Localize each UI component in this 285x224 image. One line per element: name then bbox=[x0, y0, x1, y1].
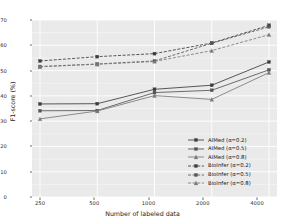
legend-item[interactable]: AIMed (α=0.8) bbox=[187, 153, 279, 162]
data-point bbox=[210, 42, 213, 45]
legend-item[interactable]: AIMed (α=0.5) bbox=[187, 145, 279, 154]
data-point bbox=[153, 88, 156, 91]
legend-marker bbox=[195, 147, 198, 150]
data-point bbox=[39, 109, 42, 112]
chart-svg bbox=[0, 0, 285, 224]
legend-key-solid-icon bbox=[187, 145, 205, 153]
legend: AIMed (α=0.2)AIMed (α=0.5)AIMed (α=0.8)B… bbox=[186, 134, 280, 190]
legend-item[interactable]: AIMed (α=0.2) bbox=[187, 136, 279, 145]
legend-key-solid-icon bbox=[187, 136, 205, 144]
legend-item[interactable]: BioInfer (α=0.5) bbox=[187, 170, 279, 179]
figure: 70 60 50 40 30 20 10 0 250 500 1000 2000… bbox=[0, 0, 285, 224]
legend-key-dashed-icon bbox=[187, 171, 205, 179]
data-point bbox=[268, 25, 271, 28]
legend-label: BioInfer (α=0.5) bbox=[208, 172, 251, 177]
legend-label: AIMed (α=0.8) bbox=[208, 155, 247, 160]
legend-item[interactable]: BioInfer (α=0.2) bbox=[187, 162, 279, 171]
legend-key-dashed-icon bbox=[187, 162, 205, 170]
legend-marker bbox=[195, 139, 198, 142]
data-point bbox=[39, 102, 42, 105]
legend-label: BioInfer (α=0.2) bbox=[208, 163, 251, 168]
legend-label: AIMed (α=0.5) bbox=[208, 146, 247, 151]
data-point bbox=[96, 102, 99, 105]
data-point bbox=[153, 52, 156, 55]
data-point bbox=[210, 89, 213, 92]
legend-marker bbox=[195, 165, 198, 168]
data-point bbox=[268, 60, 271, 63]
legend-label: AIMed (α=0.2) bbox=[208, 138, 247, 143]
data-point bbox=[39, 59, 42, 62]
data-point bbox=[210, 84, 213, 87]
legend-item[interactable]: BioInfer (α=0.8) bbox=[187, 179, 279, 188]
data-point bbox=[96, 55, 99, 58]
legend-key-dashed-icon bbox=[187, 179, 205, 187]
legend-key-solid-icon bbox=[187, 153, 205, 161]
legend-marker bbox=[195, 173, 198, 176]
legend-label: BioInfer (α=0.8) bbox=[208, 181, 251, 186]
